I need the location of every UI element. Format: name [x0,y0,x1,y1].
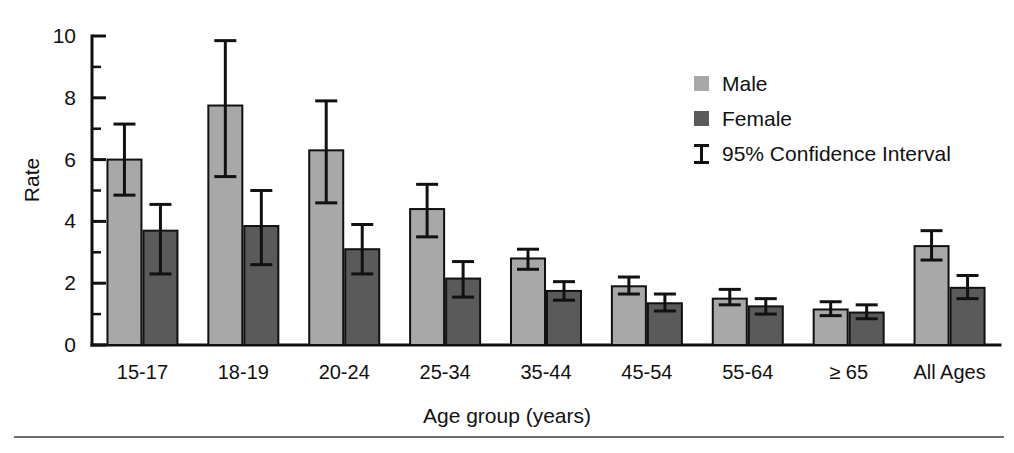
y-tick-label: 2 [30,272,76,293]
x-axis-title: Age group (years) [0,404,1014,428]
x-tick-label: 55-64 [697,362,798,382]
legend-swatch-icon [694,76,709,91]
x-tick-label: 20-24 [294,362,395,382]
x-tick-label: 35-44 [496,362,597,382]
x-tick-label: All Ages [899,362,1000,382]
y-tick-label: 6 [30,149,76,170]
chart-figure: Rate Age group (years) 0246810 15-1718-1… [0,0,1014,453]
error-bar-ibeam-icon [694,144,709,164]
legend-item-male: Male [694,66,994,101]
y-tick-label: 4 [30,210,76,231]
bottom-divider [14,436,1004,438]
y-tick-label: 0 [30,334,76,355]
axis-ticks [92,36,106,345]
y-tick-label: 8 [30,87,76,108]
legend-item-female: Female [694,101,994,136]
legend-label: 95% Confidence Interval [722,142,951,166]
x-tick-label: ≥ 65 [798,362,899,382]
chart-legend: MaleFemale95% Confidence Interval [694,66,994,171]
legend-label: Male [722,72,768,96]
legend-item-95-confidence-interval: 95% Confidence Interval [694,136,994,171]
x-tick-label: 25-34 [395,362,496,382]
y-tick-label: 10 [30,25,76,46]
bar-male-3544 [511,258,545,345]
x-tick-label: 15-17 [92,362,193,382]
x-tick-label: 45-54 [596,362,697,382]
legend-swatch-icon [694,111,709,126]
legend-label: Female [722,107,792,131]
x-tick-label: 18-19 [193,362,294,382]
